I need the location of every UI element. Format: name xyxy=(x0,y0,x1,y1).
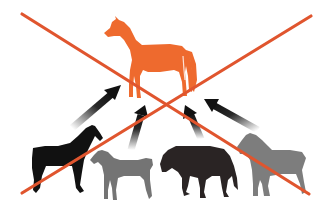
orange-target-horse-icon xyxy=(104,16,197,98)
arrow-icon xyxy=(131,105,148,150)
diagram-svg xyxy=(0,0,331,217)
dark-horse-icon xyxy=(160,146,238,198)
gray-horse-icon xyxy=(90,150,153,200)
crossed-out-horse-diagram: Crossed-out diagram: four different hors… xyxy=(0,0,331,217)
arrow-icon xyxy=(204,99,258,130)
arrow-icon xyxy=(72,85,121,128)
